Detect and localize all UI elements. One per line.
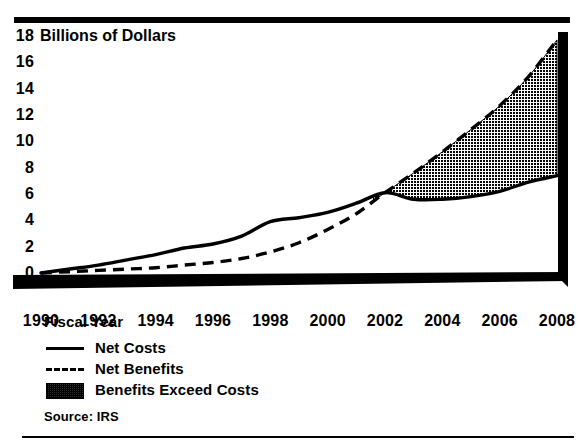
- y-axis-title: Billions of Dollars: [40, 28, 176, 44]
- chart-svg: [0, 22, 586, 290]
- benefits-exceed-costs-region: [374, 40, 557, 201]
- right-axis-bar: [558, 32, 568, 287]
- legend-item-net-benefits: Net Benefits: [44, 358, 364, 379]
- y-tick-label: 10: [0, 133, 34, 149]
- legend-item-benefits-exceed-costs: Benefits Exceed Costs: [44, 379, 364, 400]
- legend-title: Fiscal Year: [44, 312, 364, 332]
- figure-container: 18 16 14 12 10 8 6 4 2 0 Billions of Dol…: [0, 0, 586, 447]
- solid-line-icon: [44, 340, 88, 356]
- y-tick-label: 0: [0, 265, 34, 281]
- x-tick-label: 2006: [470, 312, 530, 330]
- y-tick-label: 6: [0, 186, 34, 202]
- legend-item-label: Net Costs: [95, 339, 166, 356]
- source-note: Source: IRS: [44, 409, 119, 424]
- y-tick-label: 4: [0, 212, 34, 228]
- legend-item-label: Benefits Exceed Costs: [95, 381, 259, 398]
- x-axis-bar: [13, 272, 567, 289]
- y-tick-label: 2: [0, 239, 34, 255]
- legend-item-label: Net Benefits: [95, 360, 184, 377]
- legend-item-net-costs: Net Costs: [44, 337, 364, 358]
- y-tick-label: 16: [0, 54, 34, 70]
- y-tick-label: 18: [0, 28, 34, 44]
- x-tick-label: 2002: [355, 312, 415, 330]
- chart-legend: Fiscal Year Net Costs Net Benefits Benef…: [44, 312, 364, 400]
- dashed-line-icon: [44, 361, 88, 377]
- x-tick-label: 2004: [412, 312, 472, 330]
- y-tick-label: 14: [0, 81, 34, 97]
- chart-plot-area: 18 16 14 12 10 8 6 4 2 0 Billions of Dol…: [0, 22, 586, 290]
- y-tick-label: 12: [0, 107, 34, 123]
- hatch-swatch-icon: [44, 382, 88, 398]
- bottom-divider-rule: [22, 436, 574, 438]
- x-tick-label: 2008: [527, 312, 586, 330]
- y-tick-label: 8: [0, 160, 34, 176]
